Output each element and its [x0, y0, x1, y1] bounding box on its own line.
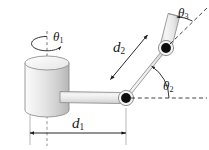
theta1-label: θ1 — [53, 30, 63, 43]
robot-arm-drawing — [0, 0, 209, 150]
d2-label: d2 — [113, 40, 125, 55]
theta2-label: θ2 — [163, 79, 173, 92]
theta3-label: θ3 — [178, 6, 188, 19]
d1-subscript: 1 — [80, 122, 85, 132]
theta2-subscript: 2 — [169, 85, 173, 94]
link-1-horizontal-arm — [60, 92, 127, 104]
base-cylinder — [25, 56, 69, 117]
d1-label: d1 — [72, 116, 84, 131]
d2-symbol: d — [113, 39, 121, 55]
d2-subscript: 2 — [121, 46, 126, 56]
robot-arm-figure: θ1 θ2 θ3 d1 d2 — [0, 0, 209, 150]
theta1-subscript: 1 — [59, 36, 63, 45]
d1-symbol: d — [72, 115, 80, 131]
theta3-subscript: 3 — [184, 12, 188, 21]
